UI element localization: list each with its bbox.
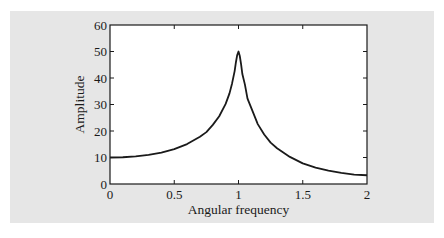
x-tick-label: 0 [107,187,114,202]
x-tick-label: 1 [235,187,242,202]
x-axis-label: Angular frequency [188,202,290,217]
x-tick-label: 2 [364,187,371,202]
x-tick-label: 0.5 [166,187,182,202]
y-tick-label: 20 [94,124,107,139]
y-tick-label: 30 [94,97,107,112]
y-tick-label: 50 [94,44,107,59]
y-tick-label: 10 [94,150,107,165]
y-tick-label: 0 [101,177,108,192]
plot-area [110,25,367,184]
amplitude-chart: 00.511.52 0102030405060 Angular frequenc… [0,0,444,238]
y-axis-label: Amplitude [72,76,87,134]
x-tick-label: 1.5 [295,187,311,202]
y-tick-label: 60 [94,18,107,33]
y-tick-label: 40 [94,71,107,86]
